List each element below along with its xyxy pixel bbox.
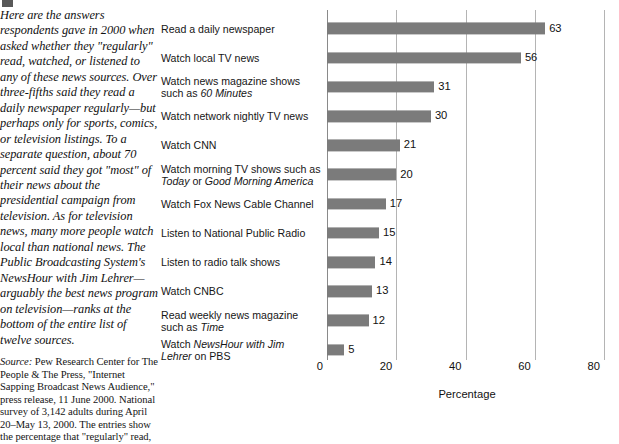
bar-category-label: Watch morning TV shows such asToday or G… (161, 162, 321, 187)
bar-value-label: 12 (373, 315, 385, 326)
bar (327, 315, 369, 327)
bar-value-label: 31 (438, 81, 450, 92)
bar-row: Watch Fox News Cable Channel17 (168, 189, 619, 218)
bar-category-label: Listen to radio talk shows (161, 256, 321, 268)
bar-track: 56 (327, 43, 537, 72)
bar-track: 14 (327, 248, 392, 277)
bar-track: 12 (327, 306, 385, 335)
bar-category-label: Read weekly news magazinesuch as Time (161, 308, 321, 333)
x-axis: 020406080 (168, 360, 619, 382)
bar-track: 21 (327, 131, 416, 160)
bar (327, 227, 379, 239)
bar-value-label: 20 (400, 169, 412, 180)
bar (327, 52, 521, 64)
bar-category-label: Watch Fox News Cable Channel (161, 198, 321, 210)
bar-row: Read weekly news magazinesuch as Time12 (168, 306, 619, 335)
source-note: Source: Pew Research Center for The Peop… (0, 356, 160, 444)
bar-track: 31 (327, 72, 451, 101)
source-label: Source: (0, 356, 32, 367)
bar-value-label: 63 (549, 23, 561, 34)
bar-row: Listen to radio talk shows14 (168, 248, 619, 277)
bar-category-label: Watch news magazine showssuch as 60 Minu… (161, 75, 321, 100)
bar (327, 256, 375, 268)
bar-value-label: 15 (383, 227, 395, 238)
bar-category-label: Listen to National Public Radio (161, 227, 321, 239)
bar-value-label: 30 (435, 111, 447, 122)
scan-artifact-mark (2, 0, 13, 7)
bar (327, 344, 344, 356)
x-tick-label-60: 60 (518, 360, 534, 372)
x-tick-label-40: 40 (449, 360, 465, 372)
bar (327, 110, 431, 122)
bar (327, 23, 545, 35)
x-tick-label-0: 0 (317, 360, 327, 372)
bar-value-label: 13 (376, 286, 388, 297)
bar-value-label: 21 (404, 140, 416, 151)
bar-track: 20 (327, 160, 413, 189)
source-text: Pew Research Center for The People & The… (0, 356, 158, 442)
bar-category-label: Watch NewsHour with JimLehrer on PBS (161, 337, 321, 362)
bar (327, 198, 386, 210)
x-tick-label-80: 80 (588, 360, 604, 372)
bar-row: Watch network nightly TV news30 (168, 102, 619, 131)
caption-paragraph: Here are the answers respondents gave in… (0, 8, 160, 348)
bar-category-label: Watch CNN (161, 139, 321, 151)
x-tick-label-20: 20 (380, 360, 396, 372)
bar-row: Watch news magazine showssuch as 60 Minu… (168, 72, 619, 101)
bar-track: 13 (327, 277, 388, 306)
bar-category-label: Watch CNBC (161, 285, 321, 297)
bar-track: 30 (327, 102, 447, 131)
bar-track: 17 (327, 189, 402, 218)
bar-value-label: 14 (379, 257, 391, 268)
bar-track: 15 (327, 218, 395, 247)
plot-area: Read a daily newspaper63Watch local TV n… (168, 10, 619, 360)
bar-row: Watch CNBC13 (168, 277, 619, 306)
bar-value-label: 5 (348, 344, 354, 355)
x-axis-title-label: Percentage (438, 388, 495, 400)
bar-value-label: 17 (390, 198, 402, 209)
bar (327, 81, 434, 93)
bar-chart: Read a daily newspaper63Watch local TV n… (168, 0, 619, 429)
bar-category-label: Watch local TV news (161, 52, 321, 64)
bar (327, 169, 396, 181)
bar-value-label: 56 (525, 52, 537, 63)
bar-row: Watch morning TV shows such asToday or G… (168, 160, 619, 189)
bar-row: Watch CNN21 (168, 131, 619, 160)
bar (327, 140, 400, 152)
bar-category-label: Read a daily newspaper (161, 22, 321, 34)
bar-row: Watch local TV news56 (168, 43, 619, 72)
bar-category-label: Watch network nightly TV news (161, 110, 321, 122)
bar-row: Listen to National Public Radio15 (168, 218, 619, 247)
bar (327, 286, 372, 298)
bar-track: 63 (327, 14, 562, 43)
caption-column: Here are the answers respondents gave in… (0, 8, 160, 444)
bar-row: Read a daily newspaper63 (168, 14, 619, 43)
